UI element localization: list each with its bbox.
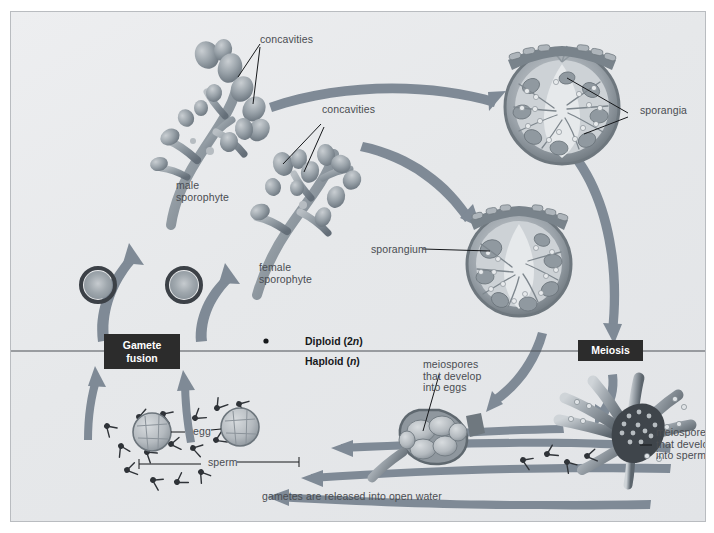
gamete-fusion-line1: Gamete xyxy=(123,339,162,352)
diploid-label: Diploid (2n) xyxy=(305,335,363,347)
egg-label: egg xyxy=(193,426,211,438)
labels-layer: concavities concavities male sporophyte … xyxy=(11,12,705,521)
meiosis-line1: Meiosis xyxy=(591,344,630,357)
gamete-fusion-box[interactable]: Gamete fusion xyxy=(104,334,180,369)
concavities-lower-label: concavities xyxy=(322,104,375,116)
meiospores-sperm-label: meiospores that develop into sperm xyxy=(656,427,706,462)
figure-frame: concavities concavities male sporophyte … xyxy=(10,11,706,522)
gametes-released-label: gametes are released into open water xyxy=(262,491,442,503)
male-sporophyte-label: male sporophyte xyxy=(176,180,229,203)
meiospores-eggs-label: meiospores that develop into eggs xyxy=(423,359,481,394)
sporangia-label: sporangia xyxy=(640,105,687,117)
life-cycle-figure: concavities concavities male sporophyte … xyxy=(0,0,714,533)
sporangium-label: sporangium xyxy=(371,244,427,256)
concavities-upper-label: concavities xyxy=(260,34,313,46)
sperm-label: sperm xyxy=(208,457,238,469)
gamete-fusion-line2: fusion xyxy=(126,352,158,365)
female-sporophyte-label: female sporophyte xyxy=(259,262,312,285)
haploid-label: Haploid (n) xyxy=(305,355,360,367)
meiosis-box[interactable]: Meiosis xyxy=(578,340,643,361)
